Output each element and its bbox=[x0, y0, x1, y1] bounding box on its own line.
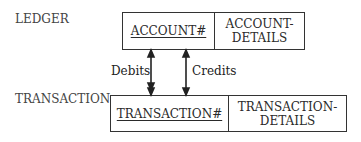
relationship-arrows bbox=[0, 0, 361, 142]
debits-label: Debits bbox=[111, 64, 150, 78]
credits-label: Credits bbox=[192, 64, 237, 78]
